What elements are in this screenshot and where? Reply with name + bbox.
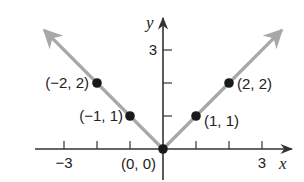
x-tick-label: 3 — [258, 154, 266, 171]
data-point — [158, 144, 168, 154]
data-point — [191, 111, 201, 121]
absolute-value-graph: −333 x y (−2, 2)(−1, 1)(0, 0)(1, 1)(2, 2… — [0, 0, 304, 182]
point-label: (2, 2) — [237, 75, 272, 92]
point-label: (0, 0) — [121, 155, 156, 172]
x-tick-label: −3 — [55, 154, 72, 171]
y-axis-ticks — [163, 50, 172, 116]
data-point — [224, 78, 234, 88]
data-point — [92, 78, 102, 88]
point-label: (1, 1) — [204, 112, 239, 129]
x-axis-label: x — [278, 154, 287, 173]
y-tick-label: 3 — [149, 41, 157, 58]
y-axis-label: y — [144, 13, 154, 32]
data-points: (−2, 2)(−1, 1)(0, 0)(1, 1)(2, 2) — [45, 74, 272, 172]
point-label: (−2, 2) — [45, 74, 89, 91]
data-point — [125, 111, 135, 121]
point-label: (−1, 1) — [79, 107, 123, 124]
